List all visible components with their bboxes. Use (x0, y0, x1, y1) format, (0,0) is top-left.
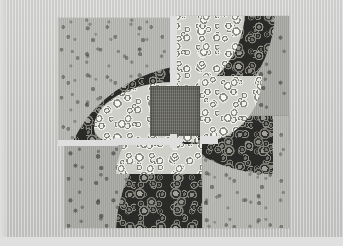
horizontal-sashing-right (200, 136, 218, 144)
center-square (150, 86, 200, 136)
panel-bottom-left (64, 144, 202, 228)
horizontal-sashing-center (114, 138, 182, 145)
vertical-sashing (170, 16, 177, 86)
photo-bottom-margin (0, 237, 343, 246)
horizontal-sashing (58, 140, 118, 146)
quilt-composition (58, 16, 288, 228)
photo-left-margin (0, 0, 6, 246)
quilt-photograph (0, 0, 343, 246)
spiral-head-bottom-left (116, 144, 202, 174)
